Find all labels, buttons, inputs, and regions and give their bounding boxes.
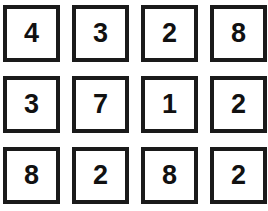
cell-digit: 8 (214, 9, 263, 58)
cell-digit: 3 (7, 80, 56, 129)
grid-cell[interactable]: 2 (210, 147, 267, 204)
cell-digit: 3 (76, 9, 125, 58)
cell-digit: 2 (76, 151, 125, 200)
grid-cell[interactable]: 7 (72, 76, 129, 133)
grid-cell[interactable]: 8 (210, 5, 267, 62)
digit-grid-canvas: 4 3 2 8 3 7 1 (0, 0, 268, 211)
cell-digit: 8 (145, 151, 194, 200)
grid-cell[interactable]: 3 (72, 5, 129, 62)
grid-cell[interactable]: 2 (141, 5, 198, 62)
cell-digit: 4 (7, 9, 56, 58)
cell-digit: 2 (145, 9, 194, 58)
cell-digit: 2 (214, 151, 263, 200)
grid-row: 4 3 2 8 (3, 5, 267, 62)
cell-digit: 8 (7, 151, 56, 200)
cell-digit: 7 (76, 80, 125, 129)
grid-cell[interactable]: 8 (141, 147, 198, 204)
digit-grid: 4 3 2 8 3 7 1 (0, 0, 268, 211)
grid-cell[interactable]: 3 (3, 76, 60, 133)
cell-digit: 1 (145, 80, 194, 129)
grid-row: 8 2 8 2 (3, 147, 267, 204)
cell-digit: 2 (214, 80, 263, 129)
grid-row: 3 7 1 2 (3, 76, 267, 133)
grid-cell[interactable]: 8 (3, 147, 60, 204)
grid-cell[interactable]: 2 (210, 76, 267, 133)
grid-cell[interactable]: 4 (3, 5, 60, 62)
grid-cell[interactable]: 1 (141, 76, 198, 133)
grid-cell[interactable]: 2 (72, 147, 129, 204)
